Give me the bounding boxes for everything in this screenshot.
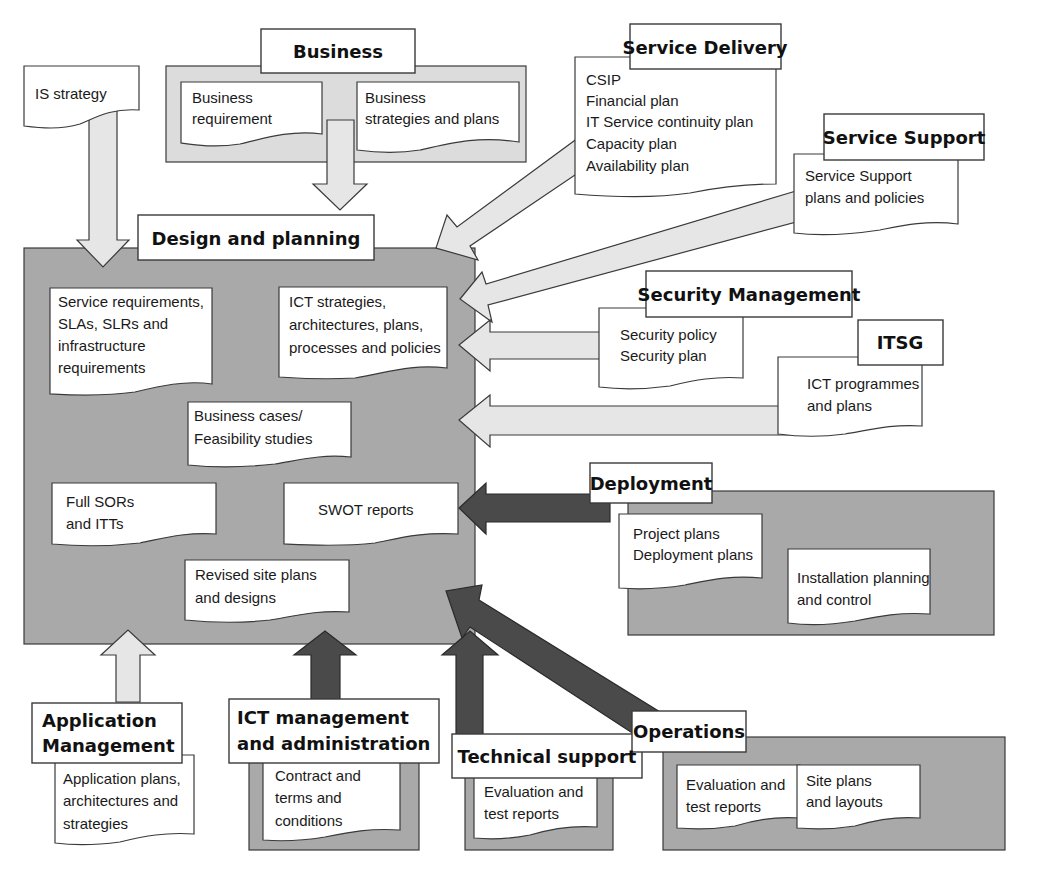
service-delivery-line-1: CSIP: [586, 71, 621, 88]
central-doc-1-line-2: SLAs, SLRs and: [58, 315, 168, 332]
deployment-doc-2-line-2: and control: [797, 591, 871, 608]
central-doc-1-line-4: requirements: [58, 359, 146, 376]
central-doc-4-line-1: Full SORs: [66, 493, 134, 510]
operations-doc-1-line-2: test reports: [686, 798, 761, 815]
is-strategy-label: IS strategy: [35, 85, 107, 102]
central-doc-5-line-1: SWOT reports: [318, 501, 414, 518]
security-line-2: Security plan: [620, 347, 707, 364]
ict-management-line-3: conditions: [275, 812, 343, 829]
service-delivery-title: Service Delivery: [622, 37, 787, 58]
operations-doc-2-line-1: Site plans: [806, 772, 872, 789]
itsg-line-1: ICT programmes: [807, 375, 919, 392]
ict-management-line-2: terms and: [275, 789, 342, 806]
central-doc-3-line-2: Feasibility studies: [194, 430, 312, 447]
business-doc-2-line-1: Business: [365, 89, 426, 106]
application-line-2: architectures and: [63, 792, 178, 809]
deployment-doc-1-line-2: Deployment plans: [633, 546, 753, 563]
deployment-doc-2-line-1: Installation planning: [797, 569, 930, 586]
security-title: Security Management: [638, 284, 861, 305]
service-delivery-line-3: IT Service continuity plan: [586, 113, 753, 130]
central-doc-1-line-1: Service requirements,: [58, 293, 204, 310]
itsg-arrow-icon: [459, 395, 790, 447]
central-doc-2-line-3: processes and policies: [289, 339, 441, 356]
ict-management-line-1: Contract and: [275, 767, 361, 784]
application-title-line-1: Application: [42, 710, 157, 731]
deployment-doc-installation: [788, 549, 930, 625]
service-delivery-line-2: Financial plan: [586, 92, 679, 109]
application-line-1: Application plans,: [63, 770, 181, 787]
service-delivery-line-5: Availability plan: [586, 157, 689, 174]
central-doc-1-line-3: infrastructure: [58, 337, 146, 354]
service-support-line-1: Service Support: [805, 167, 913, 184]
business-title: Business: [293, 41, 383, 62]
service-support-line-2: plans and policies: [805, 189, 924, 206]
itsg-line-2: and plans: [807, 397, 872, 414]
deployment-doc-1-line-1: Project plans: [633, 525, 720, 542]
itsg-title: ITSG: [877, 332, 924, 353]
is-strategy-arrow-icon: [77, 110, 129, 267]
business-doc-2-line-2: strategies and plans: [365, 110, 499, 127]
service-support-title: Service Support: [823, 127, 986, 148]
application-title-line-2: Management: [42, 735, 175, 756]
central-doc-2-line-2: architectures, plans,: [289, 316, 423, 333]
central-doc-4-line-2: and ITTs: [66, 515, 124, 532]
business-doc-1-line-1: Business: [192, 89, 253, 106]
central-doc-6-line-2: and designs: [195, 589, 276, 606]
security-line-1: Security policy: [620, 326, 717, 343]
central-doc-6-line-1: Revised site plans: [195, 566, 317, 583]
operations-doc-1-line-1: Evaluation and: [686, 776, 785, 793]
technical-support-line-1: Evaluation and: [484, 783, 583, 800]
itil-design-planning-diagram: Business Service Delivery Service Suppor…: [0, 0, 1039, 882]
technical-support-line-2: test reports: [484, 805, 559, 822]
deployment-title: Deployment: [590, 473, 713, 494]
service-delivery-line-4: Capacity plan: [586, 135, 677, 152]
ict-management-title-line-2: and administration: [237, 733, 430, 754]
technical-support-arrow-icon: [442, 631, 498, 735]
central-doc-2-line-1: ICT strategies,: [289, 293, 386, 310]
design-planning-title: Design and planning: [152, 228, 361, 249]
application-line-3: strategies: [63, 815, 128, 832]
operations-doc-2-line-2: and layouts: [806, 793, 883, 810]
technical-support-title: Technical support: [458, 746, 637, 767]
central-doc-3-line-1: Business cases/: [194, 407, 303, 424]
ict-management-title-line-1: ICT management: [237, 707, 409, 728]
deployment-arrow-icon: [459, 483, 610, 534]
business-doc-1-line-2: requirement: [192, 110, 273, 127]
operations-title: Operations: [633, 721, 745, 742]
